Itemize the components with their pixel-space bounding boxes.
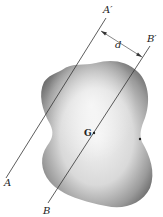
body-highlight <box>41 61 152 207</box>
label-b-prime: B′ <box>146 33 157 44</box>
distance-dimension-line <box>101 31 142 57</box>
label-b: B <box>42 205 50 216</box>
label-a: A <box>3 177 11 188</box>
diagram-canvas: A′ A B′ B d G <box>0 0 163 217</box>
label-center-of-mass-g: G <box>84 128 92 138</box>
label-distance-d: d <box>115 39 121 50</box>
dimension-arrow-left-icon <box>101 31 107 36</box>
dimension-arrow-right-icon <box>136 53 142 58</box>
center-of-mass-point <box>93 132 95 134</box>
label-a-prime: A′ <box>102 4 113 15</box>
body-point <box>139 138 141 140</box>
